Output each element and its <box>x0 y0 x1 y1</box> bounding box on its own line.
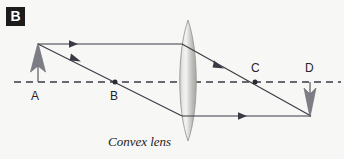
panel-label-badge: B <box>6 7 25 26</box>
refracted-ray-arrow <box>213 60 224 68</box>
axis-point-b <box>113 80 118 85</box>
refracted-ray-through-far-focus <box>182 44 311 116</box>
label-b: B <box>110 90 118 102</box>
incident-ray-through-near-focus-arrow <box>70 54 81 62</box>
parallel-incident-ray-arrow <box>69 40 78 48</box>
incident-ray-through-near-focus <box>38 44 182 116</box>
label-d: D <box>305 62 314 74</box>
figure-caption: Convex lens <box>108 135 171 148</box>
optics-diagram-canvas <box>0 0 344 159</box>
refracted-parallel-ray-arrow <box>238 112 247 120</box>
axis-point-c <box>253 80 258 85</box>
convex-lens <box>180 20 197 141</box>
label-a: A <box>31 90 39 102</box>
ray-diagram-figure: B A B C D Convex lens <box>0 0 344 159</box>
label-c: C <box>251 62 260 74</box>
